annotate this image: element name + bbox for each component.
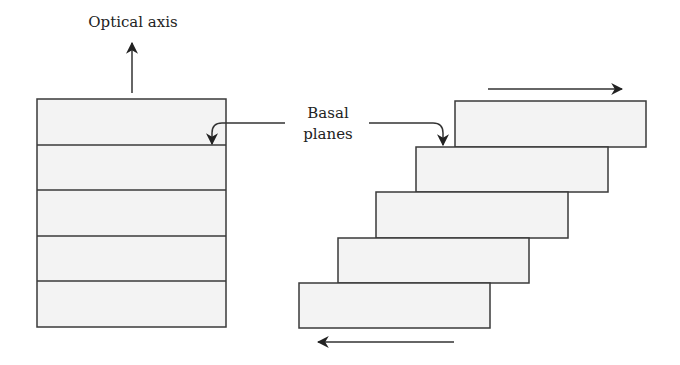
basal-planes-diagram: Optical axis Basal planes	[0, 0, 680, 365]
left-stack-outline	[37, 99, 226, 327]
left-layer-stack	[37, 99, 226, 327]
basal-planes-label-line1: Basal	[307, 104, 349, 122]
right-layer-2	[416, 147, 608, 192]
right-layer-4	[338, 238, 529, 283]
right-layer-5	[299, 283, 490, 328]
optical-axis-label: Optical axis	[88, 13, 178, 31]
basal-planes-label-line2: planes	[303, 125, 353, 143]
right-layer-1	[455, 101, 646, 147]
right-layer-3	[376, 192, 568, 238]
basal-leader-right-arrow-icon	[369, 123, 443, 145]
